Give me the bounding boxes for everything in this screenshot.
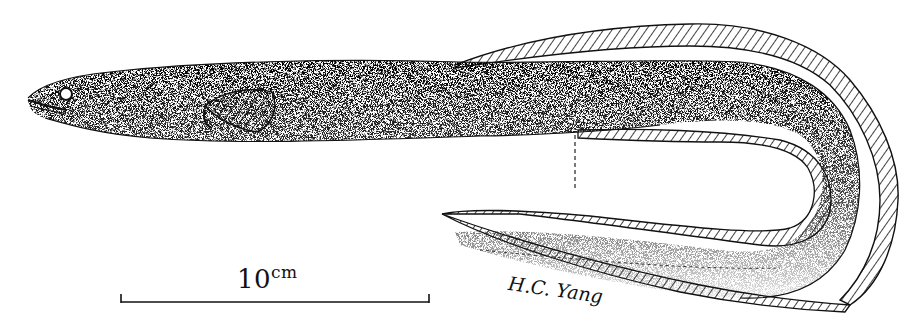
anal-fin [442,129,831,246]
eel-illustration [0,0,921,328]
scale-bar-label: 10cm [237,262,298,294]
scale-bar [121,294,429,303]
eel-body [28,60,860,298]
scale-unit: cm [271,262,298,282]
scale-value: 10 [237,264,271,294]
eye [60,88,72,100]
